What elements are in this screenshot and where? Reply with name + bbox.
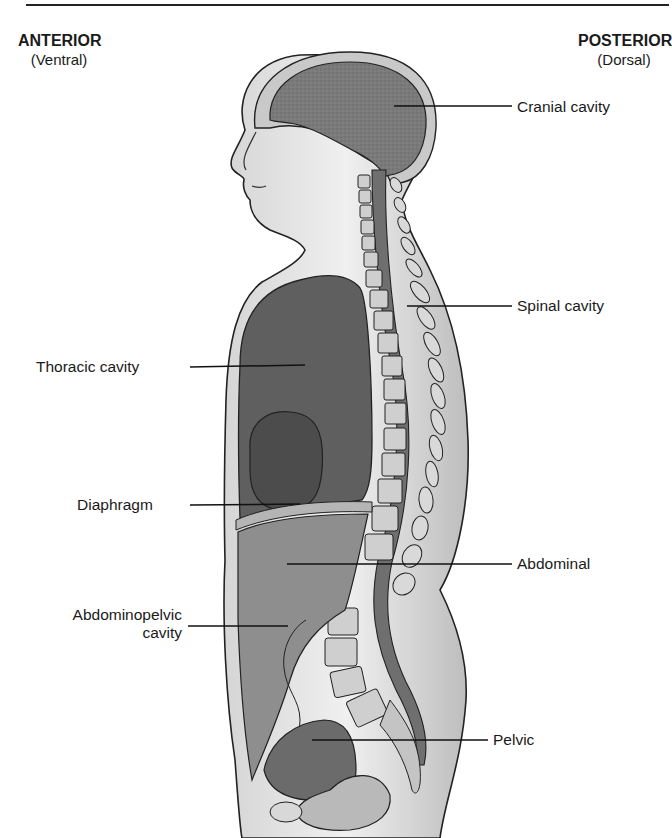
label-diaphragm: Diaphragm [77, 496, 153, 514]
label-abdominopelvic-line2: cavity [26, 624, 182, 642]
label-thoracic-cavity: Thoracic cavity [36, 358, 139, 376]
label-abdominal: Abdominal [517, 555, 590, 573]
label-abdominopelvic-cavity: Abdominopelvic cavity [26, 606, 182, 642]
label-cranial-cavity: Cranial cavity [517, 98, 610, 116]
heart [250, 412, 323, 510]
label-spinal-cavity: Spinal cavity [517, 297, 604, 315]
label-pelvic: Pelvic [493, 731, 534, 749]
pubic-bone [270, 802, 302, 822]
label-abdominopelvic-line1: Abdominopelvic [26, 606, 182, 624]
